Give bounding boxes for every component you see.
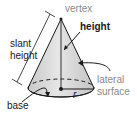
vertex-point: [60, 18, 63, 21]
base-label: base: [7, 100, 29, 111]
vertex-label: vertex: [65, 3, 92, 14]
slant-label-line2: height: [10, 50, 37, 61]
lateral-label-line1: lateral: [97, 74, 124, 85]
radius-label: r: [73, 89, 76, 100]
height-label: height: [80, 21, 110, 32]
lateral-label-line2: surface: [97, 86, 130, 97]
cone-diagram: vertex height slant height lateral surfa…: [0, 0, 137, 115]
slant-label-line1: slant: [10, 38, 31, 49]
